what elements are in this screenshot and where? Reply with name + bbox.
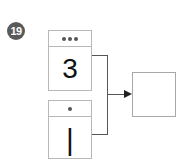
card-value: 3 <box>49 47 91 83</box>
dots-header <box>49 31 91 47</box>
card-value: | <box>49 117 91 155</box>
number-card-bottom: | <box>48 100 92 159</box>
dots-header <box>49 101 91 117</box>
connector-bottom <box>92 134 108 135</box>
dot-icon <box>74 37 78 41</box>
dot-icon <box>62 37 66 41</box>
dot-icon <box>68 107 72 111</box>
number-card-top: 3 <box>48 30 92 91</box>
connector-top <box>92 55 108 56</box>
connector-vertical <box>107 55 108 135</box>
problem-number-badge: 19 <box>7 22 25 40</box>
connector-arrow-line <box>107 94 125 95</box>
arrow-right-icon <box>124 90 132 98</box>
answer-box[interactable] <box>132 72 176 117</box>
dot-icon <box>68 37 72 41</box>
